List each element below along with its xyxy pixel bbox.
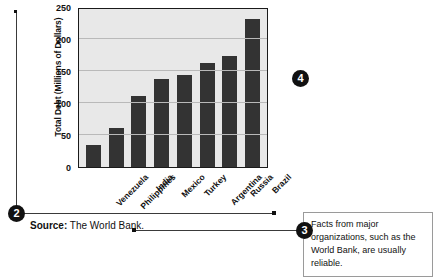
leader-line-vertical-endpoint-dot [14,10,17,13]
gridline-150 [79,70,267,71]
annotation-callout-box: Facts from major organizations, such as … [303,212,433,277]
callout-marker-2[interactable]: 2 [8,205,25,222]
bar-argentina [200,63,215,167]
bar-mexico [154,79,169,167]
bar-venezuela [86,145,101,167]
leader-line-annotation [135,230,297,231]
source-line: Source: The World Bank. [30,220,144,231]
y-axis-tick-100: 100 [56,99,71,109]
chart-plot-area [78,8,268,168]
callout-marker-3[interactable]: 3 [296,222,313,239]
y-axis-tick-150: 150 [56,67,71,77]
leader-line-source [24,213,276,214]
callout-marker-4[interactable]: 4 [292,70,309,87]
chart-bars-layer [79,9,267,167]
bar-chart-figure: Total Debt (Millions of Dollars) 0501001… [30,4,280,214]
x-axis-tick-labels: VenezuelaPhilippinesIndiaMexicoTurkeyArg… [78,170,268,216]
x-axis-tick-brazil: Brazil [269,172,292,195]
y-axis-tick-250: 250 [56,3,71,13]
bar-brazil [245,19,260,167]
x-axis-tick-turkey: Turkey [201,172,227,198]
y-axis-tick-200: 200 [56,35,71,45]
y-axis-tick-0: 0 [66,163,71,173]
x-axis-tick-mexico: Mexico [179,172,206,199]
source-label: Source: [30,220,67,231]
gridline-200 [79,38,267,39]
y-axis-tick-50: 50 [61,131,71,141]
bar-turkey [177,75,192,167]
y-axis-tick-labels: 050100150200250 [48,8,74,168]
bar-india [131,96,146,167]
leader-line-annotation-endpoint-dot [132,228,136,232]
leader-line-vertical [16,12,17,208]
leader-line-source-endpoint-dot [272,211,276,215]
gridline-50 [79,134,267,135]
bar-russia [222,56,237,167]
gridline-100 [79,102,267,103]
